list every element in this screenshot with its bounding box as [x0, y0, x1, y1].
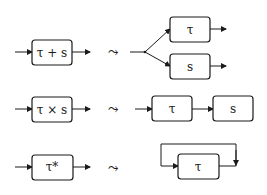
choice-label: τ + s	[37, 46, 67, 60]
s-label: s	[230, 102, 236, 116]
transform-arrow-icon: ⤳	[108, 160, 119, 175]
transform-arrow-icon: ⤳	[108, 44, 119, 59]
s-label: s	[187, 60, 193, 74]
branch-upper	[145, 29, 170, 52]
row-iteration: τ* ⤳ τ	[15, 144, 236, 180]
tau-label: τ	[169, 102, 176, 116]
iteration-label: τ*	[46, 160, 59, 174]
tau-label: τ	[195, 160, 202, 174]
row-sequence: τ × s ⤳ τ s	[15, 96, 253, 122]
row-choice: τ + s ⤳ τ s	[15, 17, 226, 79]
transform-arrow-icon: ⤳	[108, 101, 119, 116]
sequence-label: τ × s	[37, 103, 67, 117]
tau-label: τ	[187, 23, 194, 37]
branch-lower	[145, 52, 170, 66]
diagram-canvas: τ + s ⤳ τ s τ × s ⤳ τ s τ* ⤳	[0, 0, 267, 195]
